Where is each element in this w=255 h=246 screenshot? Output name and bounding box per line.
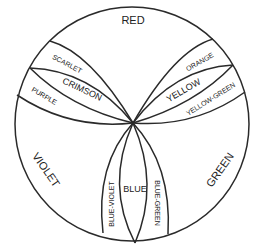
orange-boundary-curve	[133, 39, 213, 123]
blue-green-boundary-curve	[133, 123, 168, 234]
label-blue-green: BLUE-GREEN	[154, 180, 161, 226]
blue-right-curve	[133, 123, 147, 243]
color-circle-diagram: RED SCARLET CRIMSON PURPLE ORANGE YELLOW…	[0, 0, 255, 246]
label-green: GREEN	[204, 150, 236, 189]
blue-violet-boundary-curve	[102, 123, 133, 233]
purple-boundary-curve	[17, 95, 133, 124]
label-orange: ORANGE	[185, 51, 215, 72]
label-blue: BLUE	[123, 184, 147, 194]
label-red: RED	[121, 14, 144, 26]
blue-left-curve	[119, 123, 135, 243]
label-violet: VIOLET	[30, 150, 62, 189]
label-blue-violet: BLUE-VIOLET	[108, 181, 115, 227]
label-yellow: YELLOW	[165, 76, 203, 104]
